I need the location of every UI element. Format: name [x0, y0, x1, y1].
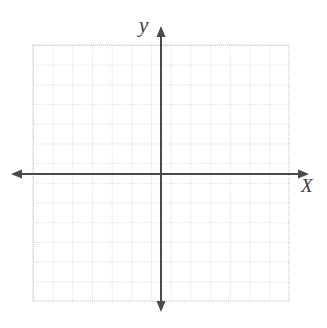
- x-axis-left-arrowhead: [11, 170, 22, 179]
- x-axis-label: X: [301, 176, 313, 195]
- coordinate-plane-figure: y X: [0, 0, 327, 328]
- y-axis-label: y: [139, 15, 148, 36]
- y-axis-bottom-arrowhead: [157, 301, 166, 312]
- y-axis-top-arrowhead: [157, 26, 166, 37]
- coordinate-grid-svg: [0, 0, 327, 328]
